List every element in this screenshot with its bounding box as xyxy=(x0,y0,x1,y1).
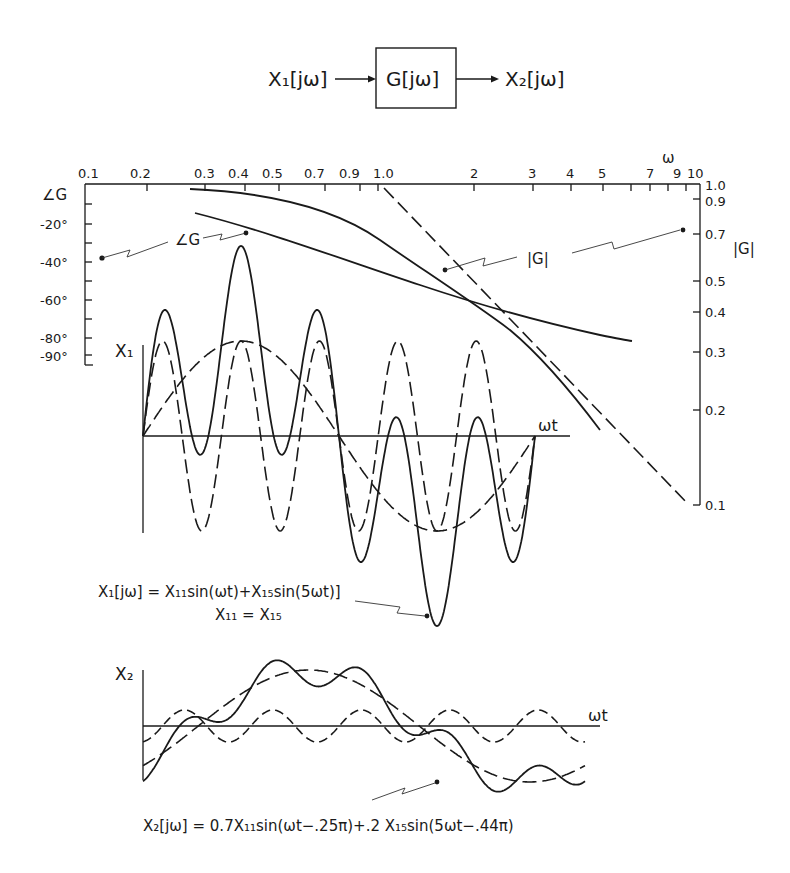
svg-text:3: 3 xyxy=(528,166,536,181)
svg-text:0.7: 0.7 xyxy=(304,166,325,181)
svg-text:-60°: -60° xyxy=(40,293,68,308)
x1-plot: X₁ ωt X₁[jω] = X₁₁sin(ωt)+X₁₅sin(5ωt)] X… xyxy=(98,246,570,626)
magnitude-axis-title: |G| xyxy=(733,240,755,258)
svg-text:0.3: 0.3 xyxy=(705,345,726,360)
svg-text:1.0: 1.0 xyxy=(705,178,726,193)
svg-text:0.3: 0.3 xyxy=(194,166,215,181)
phase-leader-line xyxy=(102,242,168,258)
phase-tick-labels: -20° -40° -60° -80° -90° xyxy=(40,217,68,364)
x2-leader-line xyxy=(372,783,435,800)
svg-text:9: 9 xyxy=(673,166,681,181)
magnitude-tick-labels: 1.0 0.9 0.7 0.5 0.4 0.3 0.2 0.1 xyxy=(705,178,726,513)
input-signal-label: X₁[jω] xyxy=(268,67,328,91)
svg-text:-20°: -20° xyxy=(40,217,68,232)
x2-axis-label: X₂ xyxy=(115,664,133,684)
svg-text:-40°: -40° xyxy=(40,255,68,270)
svg-text:2: 2 xyxy=(470,166,478,181)
svg-text:0.1: 0.1 xyxy=(78,166,99,181)
magnitude-ticks xyxy=(693,199,700,410)
frequency-ticks: 0.1 0.2 0.3 0.4 0.5 0.7 0.9 1.0 2 3 4 5 … xyxy=(78,166,704,191)
svg-text:0.5: 0.5 xyxy=(705,274,726,289)
svg-text:10: 10 xyxy=(687,166,704,181)
svg-text:-90°: -90° xyxy=(40,349,68,364)
input-arrowhead-icon xyxy=(368,76,376,83)
phase-curve xyxy=(195,213,632,341)
x1-equation: X₁[jω] = X₁₁sin(ωt)+X₁₅sin(5ωt)] xyxy=(98,583,341,601)
x1-leader-line xyxy=(355,601,425,616)
block-label: G[jω] xyxy=(386,67,439,91)
output-signal-label: X₂[jω] xyxy=(505,67,565,91)
bode-plot: ω 0.1 0.2 0.3 0.4 0.5 0.7 0.9 1.0 2 3 4 … xyxy=(40,149,755,513)
phase-axis-title: ∠G xyxy=(42,186,67,204)
svg-text:0.5: 0.5 xyxy=(262,166,283,181)
output-arrowhead-icon xyxy=(491,76,499,83)
svg-text:0.4: 0.4 xyxy=(705,305,726,320)
svg-text:0.2: 0.2 xyxy=(705,403,726,418)
svg-text:7: 7 xyxy=(646,166,654,181)
phase-minor-ticks xyxy=(85,204,92,355)
svg-text:0.2: 0.2 xyxy=(130,166,151,181)
svg-text:1.0: 1.0 xyxy=(373,166,394,181)
figure-canvas: X₁[jω] G[jω] X₂[jω] ω 0.1 0.2 0.3 0.4 0.… xyxy=(0,0,790,873)
svg-text:5: 5 xyxy=(598,166,606,181)
svg-text:0.4: 0.4 xyxy=(228,166,249,181)
x2-plot: X₂ ωt X₂[jω] = 0.7X₁₁sin(ωt−.25π)+.2 X₁₅… xyxy=(115,660,608,835)
x1-time-label: ωt xyxy=(538,416,558,435)
phase-curve-label: ∠G xyxy=(175,231,200,249)
svg-text:0.7: 0.7 xyxy=(705,227,726,242)
svg-text:0.9: 0.9 xyxy=(339,166,360,181)
magnitude-curve xyxy=(190,189,600,430)
svg-text:-80°: -80° xyxy=(40,331,68,346)
x1-condition: X₁₁ = X₁₅ xyxy=(215,606,282,624)
magnitude-asymptote xyxy=(384,188,688,504)
x2-equation: X₂[jω] = 0.7X₁₁sin(ωt−.25π)+.2 X₁₅sin(5ω… xyxy=(143,817,514,835)
x2-time-label: ωt xyxy=(588,706,608,725)
block-diagram: X₁[jω] G[jω] X₂[jω] xyxy=(268,48,565,108)
svg-text:0.1: 0.1 xyxy=(705,498,726,513)
svg-text:0.9: 0.9 xyxy=(705,194,726,209)
x1-axis-label: X₁ xyxy=(115,341,133,361)
svg-text:4: 4 xyxy=(566,166,574,181)
frequency-axis-label: ω xyxy=(662,149,675,167)
magnitude-curve-label: |G| xyxy=(527,250,549,268)
